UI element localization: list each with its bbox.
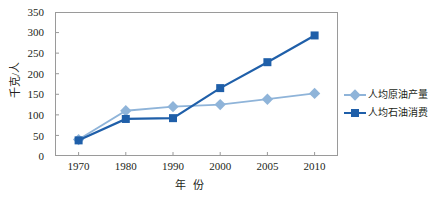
legend-label-consumption: 人均石油消费 xyxy=(366,107,428,119)
x-tick-label-1980: 1980 xyxy=(106,161,146,172)
chart-legend: 人均原油产量 人均石油消费 xyxy=(344,86,437,122)
y-tick-label-250: 250 xyxy=(16,48,44,59)
series-oil-consumption xyxy=(75,31,319,144)
x-axis-title: 年 份 xyxy=(175,176,206,192)
x-tick-label-1970: 1970 xyxy=(59,161,99,172)
legend-item-crude-oil-production: 人均原油产量 xyxy=(344,86,437,104)
series-line-production xyxy=(79,93,315,139)
y-tick-label-300: 300 xyxy=(16,27,44,38)
series-line-consumption xyxy=(79,35,315,140)
line-chart: 千克/人 350 300 250 200 150 100 50 0 xyxy=(0,0,437,207)
y-axis-title: 千克/人 xyxy=(6,50,22,110)
y-tick-label-100: 100 xyxy=(16,110,44,121)
x-tick-label-2000: 2000 xyxy=(200,161,240,172)
y-tick-label-200: 200 xyxy=(16,69,44,80)
y-tick-label-50: 50 xyxy=(16,131,44,142)
legend-item-oil-consumption: 人均石油消费 xyxy=(344,104,437,122)
y-tick-label-150: 150 xyxy=(16,89,44,100)
y-tick-label-0: 0 xyxy=(16,151,44,162)
y-tick-marks xyxy=(55,33,59,136)
x-tick-label-2010: 2010 xyxy=(295,161,335,172)
diamond-marker-icon xyxy=(344,88,366,102)
y-tick-label-350: 350 xyxy=(16,7,44,18)
legend-label-production: 人均原油产量 xyxy=(366,89,428,101)
plot-canvas xyxy=(55,12,338,156)
series-markers-consumption xyxy=(75,31,319,144)
x-tick-marks xyxy=(79,152,315,156)
x-tick-label-2005: 2005 xyxy=(247,161,287,172)
square-marker-icon xyxy=(344,106,366,120)
x-tick-label-1990: 1990 xyxy=(153,161,193,172)
series-crude-oil-production xyxy=(73,88,320,145)
